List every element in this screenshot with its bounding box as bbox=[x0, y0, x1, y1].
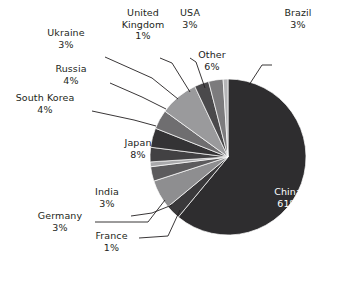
slice-label-other-name: Other bbox=[186, 49, 238, 61]
leader-line-russia bbox=[110, 83, 166, 109]
slice-label-russia-name: Russia bbox=[40, 63, 102, 75]
slice-label-united-kingdom: United Kingdom 1% bbox=[110, 7, 176, 42]
slice-label-ukraine-name: Ukraine bbox=[33, 27, 99, 39]
leader-line-skorea bbox=[92, 111, 156, 126]
slice-label-germany-name: Germany bbox=[25, 210, 95, 222]
slice-label-ukraine: Ukraine 3% bbox=[33, 27, 99, 51]
slice-label-india: India 3% bbox=[83, 186, 131, 210]
slice-label-russia-pct: 4% bbox=[40, 75, 102, 87]
slice-label-china-name: China bbox=[262, 186, 314, 198]
slice-label-united-kingdom-name: United Kingdom bbox=[110, 7, 176, 30]
slice-label-south-korea-name: South Korea bbox=[4, 92, 86, 104]
slice-label-ukraine-pct: 3% bbox=[33, 39, 99, 51]
slice-label-india-pct: 3% bbox=[83, 198, 131, 210]
leader-line-ukraine bbox=[105, 57, 178, 99]
slice-label-france-pct: 1% bbox=[84, 242, 139, 254]
slice-label-japan-name: Japan bbox=[112, 137, 164, 149]
slice-label-japan-pct: 8% bbox=[112, 149, 164, 161]
slice-label-brazil: Brazil 3% bbox=[272, 7, 324, 31]
slice-label-brazil-name: Brazil bbox=[272, 7, 324, 19]
slice-label-other: Other 6% bbox=[186, 49, 238, 73]
slice-label-south-korea-pct: 4% bbox=[4, 104, 86, 116]
slice-label-other-pct: 6% bbox=[186, 61, 238, 73]
slice-label-russia: Russia 4% bbox=[40, 63, 102, 87]
pie-slice-group bbox=[150, 79, 306, 235]
leader-line-brazil bbox=[249, 65, 272, 85]
pie-chart: Brazil 3% USA 3% United Kingdom 1% Ukrai… bbox=[0, 0, 363, 291]
slice-label-china: China 61% bbox=[262, 186, 314, 210]
slice-label-france-name: France bbox=[84, 230, 139, 242]
slice-label-united-kingdom-pct: 1% bbox=[110, 30, 176, 42]
leader-line-india bbox=[131, 205, 172, 216]
slice-label-brazil-pct: 3% bbox=[272, 19, 324, 31]
slice-label-india-name: India bbox=[83, 186, 131, 198]
slice-label-japan: Japan 8% bbox=[112, 137, 164, 161]
slice-label-france: France 1% bbox=[84, 230, 139, 254]
slice-label-south-korea: South Korea 4% bbox=[4, 92, 86, 116]
slice-label-china-pct: 61% bbox=[262, 198, 314, 210]
